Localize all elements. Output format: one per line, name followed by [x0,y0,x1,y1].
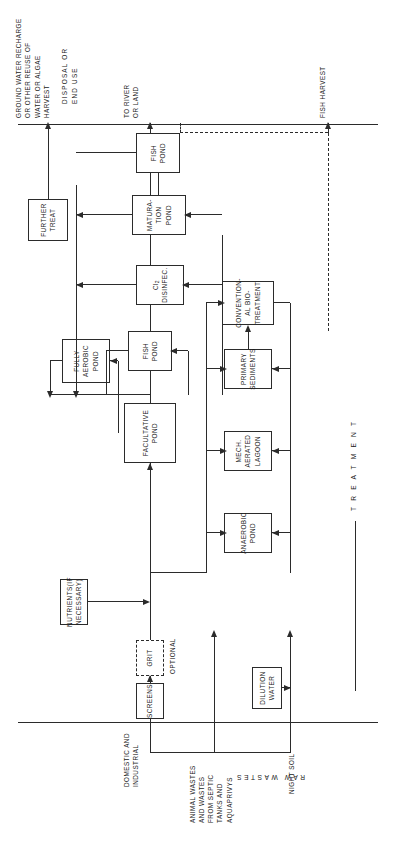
box-mech-aerated-lagoon-label: MECH. AERATED LAGOON [234,434,262,468]
box-anaerobic-pond[interactable]: ANAEROBIC POND [224,513,272,553]
maturation-in-arrow [184,213,191,219]
output-label-to-river: TO RIVER OR LAND [122,84,141,118]
flow-diagram-canvas: RAW WASTES DISPOSAL OR END USE T R E A T… [0,0,395,841]
lagoon-in-arrow [220,449,227,455]
anaerobic-in-arrow [220,531,227,537]
cl2-in-arrow [182,283,189,289]
polish-feed-bus [222,235,223,395]
input-label-animal: ANIMAL WASTES AND WASTES FROM SEPTIC TAN… [188,765,234,823]
fish-pond-2-out-line [76,152,136,153]
anaerobic-out-arrow [272,531,279,537]
primary-sediments-out-arrow [272,367,279,373]
input-line-animal [214,633,215,753]
aerobic-in-arrow [110,359,117,365]
maturation-to-fish-2-line [158,173,159,195]
box-conventional-bio-treatment-label: CONVENTION- AL BIO- TREATMENT [234,278,262,328]
box-further-treat-label: FURTHER TREAT [39,202,58,238]
fish-pond-1-in-arrow [170,349,177,355]
aerobic-return-down [50,394,150,395]
box-nutrients[interactable]: NUTRIENTS(IF NECESSARY) [60,579,88,625]
input-label-night-soil: NIGHT SOIL [287,753,296,794]
box-nutrients-label: NUTRIENTS(IF NECESSARY) [65,577,84,627]
box-maturation-pond-label: MATURA- TION POND [145,198,173,232]
raw-wastes-axis-line [18,722,378,723]
fish-harvest-dashed-line [328,123,329,331]
box-cl2-disinfec-label: Cl2DISINFEC. [151,267,170,303]
nutrients-arrow [143,600,150,606]
box-anaerobic-pond-label: ANAEROBIC POND [239,512,258,554]
input-line-night-soil-vertical [150,752,290,753]
fish-pond-2-dashed-out [180,123,181,133]
fish-pond-1-return-line [106,351,107,395]
facultative-in-arrow [147,463,153,470]
maturation-out-arrow [76,213,83,219]
box-fish-pond-2[interactable]: FISH POND [136,133,180,173]
ground-water-arrow [45,122,51,129]
sediments-to-bio-arrow [245,325,251,332]
box-further-treat[interactable]: FURTHER TREAT [28,199,68,241]
box-primary-sediments[interactable]: PRIMARY SEDIMENTS [224,349,272,389]
lagoon-out-arrow [272,449,279,455]
box-grit-label: GRIT [145,649,154,666]
maturation-in-line [186,214,222,215]
cl2-out-arrow [76,283,83,289]
treatment-axis-line [355,521,356,691]
further-treat-out-line [48,125,49,199]
fish-harvest-arrow [325,122,331,129]
fish-pond-1-feed-line [188,351,189,395]
box-facultative-pond[interactable]: FACULTATIVE POND [124,403,176,463]
sediments-to-bio-line [248,329,249,349]
input-arrow-animal [211,630,217,637]
screens-to-grit-arrow [147,676,153,683]
box-fish-pond-1[interactable]: FISH POND [128,331,172,371]
rotated-diagram-world: RAW WASTES DISPOSAL OR END USE T R E A T… [0,0,395,841]
output-label-ground-water: GROUND WATER RECHARGE OR OTHER REUSE OF … [14,18,52,118]
box-dilution-water[interactable]: DILUTION WATER [252,667,282,709]
box-fully-aerobic-pond[interactable]: FULLY AEROBIC POND [62,339,110,383]
spine-end-arrow [147,122,153,129]
input-label-domestic: DOMESTIC AND INDUSTRIAL [122,733,141,787]
box-conventional-bio-treatment[interactable]: CONVENTION- AL BIO- TREATMENT [222,281,274,325]
output-label-fish-harvest: FISH HARVEST [318,66,327,118]
box-grit[interactable]: GRIT [136,640,164,676]
box-mech-aerated-lagoon[interactable]: MECH. AERATED LAGOON [224,431,272,471]
box-screens[interactable]: SCREENS [136,683,164,719]
fish-harvest-dashed-vertical [180,132,328,133]
cl2-in-line [184,284,222,285]
fish-pond-1-out-line [106,350,128,351]
nutrients-connector [88,601,143,602]
input-line-night-soil [290,633,291,753]
disposal-axis-label: DISPOSAL OR END USE [60,48,81,104]
box-cl2-disinfec[interactable]: Cl2DISINFEC. [136,265,184,305]
pretreat-branch-down [150,572,206,573]
box-primary-sediments-label: PRIMARY SEDIMENTS [239,348,258,389]
pretreat-branch-bus-out [290,303,291,573]
cl2-out-line [76,284,136,285]
facultative-to-aerobic-line [118,361,119,433]
box-fish-pond-2-label: FISH POND [149,136,168,170]
box-dilution-water-label: DILUTION WATER [258,670,277,706]
aerobic-return-line [50,361,51,395]
box-fish-pond-1-label: FISH POND [141,334,160,368]
input-arrow-night-soil [287,630,293,637]
box-facultative-pond-label: FACULTATIVE POND [141,406,160,460]
box-maturation-pond[interactable]: MATURA- TION POND [132,195,186,235]
annotation-optional: OPTIONAL [168,638,177,674]
treatment-axis-label: T R E A T M E N T [350,420,357,511]
polish-return-arrow [73,391,79,398]
aerobic-out-line [50,360,62,361]
maturation-out-line [76,214,132,215]
dilution-water-arrow [284,686,291,692]
box-screens-label: SCREENS [145,684,154,718]
